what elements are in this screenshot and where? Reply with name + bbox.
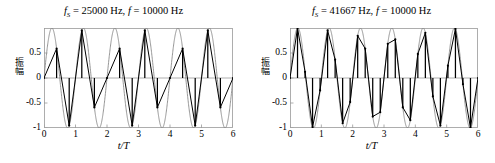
x-tick-label: 5 — [195, 129, 209, 139]
title-f-value: = 10000 Hz — [379, 5, 431, 16]
x-axis-label-right: t/T — [248, 140, 495, 151]
plot-svg-right — [290, 28, 478, 128]
x-tick-label: 6 — [471, 129, 485, 139]
title-fs-value: = 41667 Hz, — [318, 5, 376, 16]
chart-panel-right: fS = 41667 Hz, f = 10000 Hz 振幅 t/T 0.50-… — [248, 0, 495, 163]
chart-panel-left: fS = 25000 Hz, f = 10000 Hz 振幅 t/T 0.50-… — [0, 0, 247, 163]
x-tick-label: 1 — [314, 129, 328, 139]
x-tick-label: 4 — [163, 129, 177, 139]
panel-title-right: fS = 41667 Hz, f = 10000 Hz — [248, 5, 495, 19]
y-tick-label: -0.5 — [15, 97, 41, 107]
title-fs-value: = 25000 Hz, — [70, 5, 128, 16]
x-axis-label-left: t/T — [0, 140, 247, 151]
x-tick-label: 0 — [37, 129, 51, 139]
x-tick-label: 3 — [377, 129, 391, 139]
title-f-value: = 10000 Hz — [131, 5, 183, 16]
y-tick-label: 0.5 — [15, 47, 41, 57]
x-tick-label: 2 — [346, 129, 360, 139]
x-tick-label: 0 — [283, 129, 297, 139]
x-tick-label: 1 — [69, 129, 83, 139]
x-tick-label: 3 — [132, 129, 146, 139]
y-tick-label: -0.5 — [261, 97, 287, 107]
x-tick-label: 4 — [408, 129, 422, 139]
x-tick-label: 2 — [100, 129, 114, 139]
plot-area-right — [290, 28, 478, 128]
x-tick-label: 5 — [440, 129, 454, 139]
x-tick-label: 6 — [226, 129, 240, 139]
y-tick-label: 0.5 — [261, 47, 287, 57]
panel-title-left: fS = 25000 Hz, f = 10000 Hz — [0, 5, 247, 19]
y-tick-label: 0 — [15, 72, 41, 82]
plot-svg-left — [44, 28, 233, 128]
plot-area-left — [44, 28, 233, 128]
sampling-aliasing-figure: fS = 25000 Hz, f = 10000 Hz 振幅 t/T 0.50-… — [0, 0, 495, 163]
y-tick-label: 0 — [261, 72, 287, 82]
